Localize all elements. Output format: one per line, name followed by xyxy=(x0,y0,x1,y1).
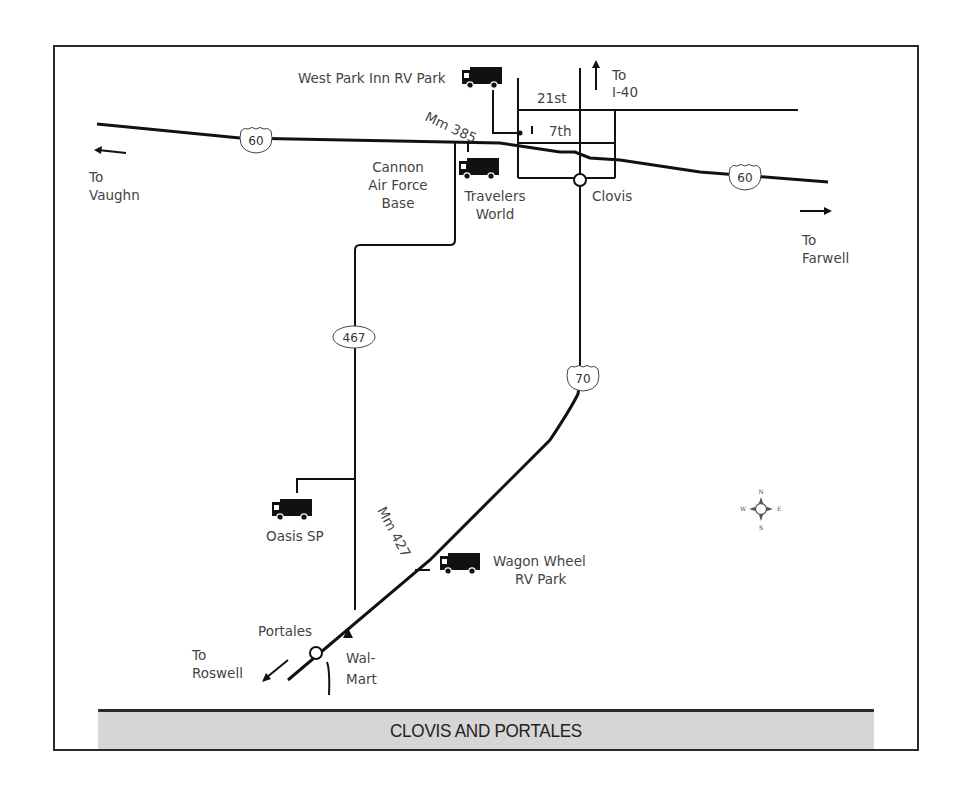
label-vaughn-line1: To xyxy=(88,169,103,185)
label-west-park: West Park Inn RV Park xyxy=(298,70,446,86)
clovis-streets xyxy=(468,68,798,380)
label-wagon-line1: Wagon Wheel xyxy=(493,553,586,569)
label-farwell-line1: To xyxy=(801,232,816,248)
portales-marker xyxy=(310,647,322,659)
nm467-shield: 467 xyxy=(333,326,375,348)
arrow-west-icon xyxy=(98,150,126,153)
svg-text:W: W xyxy=(740,505,747,512)
label-mm427: Mm 427 xyxy=(374,504,414,560)
label-cannon-line2: Air Force xyxy=(368,177,427,193)
us60-shield-east: 60 xyxy=(729,165,761,191)
svg-text:70: 70 xyxy=(575,372,590,386)
compass-rose-icon: N S E W xyxy=(740,488,781,531)
label-cannon-line3: Base xyxy=(382,195,415,211)
svg-text:S: S xyxy=(759,524,763,531)
svg-text:60: 60 xyxy=(737,171,752,185)
label-walmart-line2: Mart xyxy=(346,671,377,687)
label-portales: Portales xyxy=(258,623,312,639)
label-oasis: Oasis SP xyxy=(266,528,324,544)
label-i40-line2: I-40 xyxy=(612,84,638,100)
svg-text:E: E xyxy=(777,505,781,512)
svg-text:60: 60 xyxy=(248,134,263,148)
us60-shield-west: 60 xyxy=(240,128,272,154)
map-canvas: 60 60 70 467 West Park Inn RV Park 21st … xyxy=(0,0,968,795)
label-cannon-line1: Cannon xyxy=(372,159,424,175)
label-clovis: Clovis xyxy=(592,188,632,204)
label-travelers-line2: World xyxy=(476,206,515,222)
label-roswell-line1: To xyxy=(191,647,206,663)
label-21st: 21st xyxy=(537,90,567,106)
label-i40-line1: To xyxy=(611,67,626,83)
label-roswell-line2: Roswell xyxy=(192,665,243,681)
rv-icon-west-park xyxy=(462,67,502,88)
label-walmart-line1: Wal- xyxy=(346,650,376,666)
label-farwell-line2: Farwell xyxy=(802,250,849,266)
label-wagon-line2: RV Park xyxy=(515,571,567,587)
rv-icon-oasis xyxy=(272,499,312,520)
clovis-marker xyxy=(574,174,586,186)
rv-icon-travelers xyxy=(459,158,499,179)
svg-text:N: N xyxy=(758,488,763,495)
svg-text:467: 467 xyxy=(343,331,366,345)
arrow-southwest-icon xyxy=(266,660,288,678)
label-7th: 7th xyxy=(549,123,571,139)
us70-road xyxy=(288,380,580,680)
rv-icon-wagon-wheel xyxy=(440,553,480,574)
label-travelers-line1: Travelers xyxy=(463,188,525,204)
us70-shield: 70 xyxy=(567,366,599,392)
label-vaughn-line2: Vaughn xyxy=(89,187,140,203)
